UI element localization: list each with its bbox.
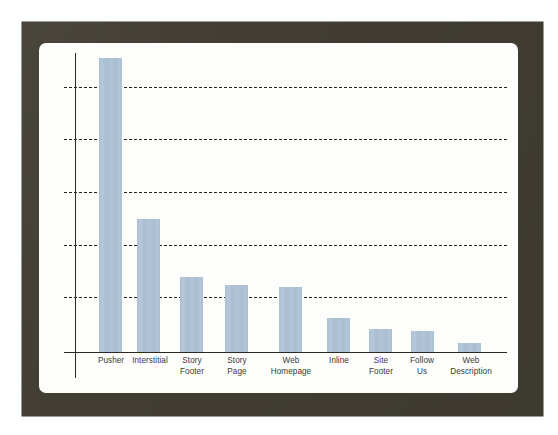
bar-web-homepage[interactable] [279,287,302,352]
y-axis-line [75,53,76,378]
bar-story-footer[interactable] [180,277,203,352]
gridline-5 [64,87,507,88]
x-tick-label-story-footer: Story Footer [167,356,217,377]
x-tick-label-web-description: Web Description [437,356,505,377]
bar-interstitial[interactable] [137,219,160,352]
x-tick-label-story-page: Story Page [212,356,262,377]
bar-follow-us[interactable] [411,331,434,352]
bar-inline[interactable] [327,318,350,352]
bar-pusher[interactable] [99,58,122,352]
gridline-2 [64,245,507,246]
x-axis-line [64,352,507,353]
gridline-4 [64,139,507,140]
screenshot-root: Pusher Interstitial Story Footer Story P… [0,0,558,435]
chart-card: Pusher Interstitial Story Footer Story P… [39,43,518,393]
bar-story-page[interactable] [225,285,248,352]
bar-site-footer[interactable] [369,329,392,352]
gridline-3 [64,192,507,193]
bar-web-description[interactable] [458,343,481,352]
bar-chart-plot: Pusher Interstitial Story Footer Story P… [39,43,518,393]
